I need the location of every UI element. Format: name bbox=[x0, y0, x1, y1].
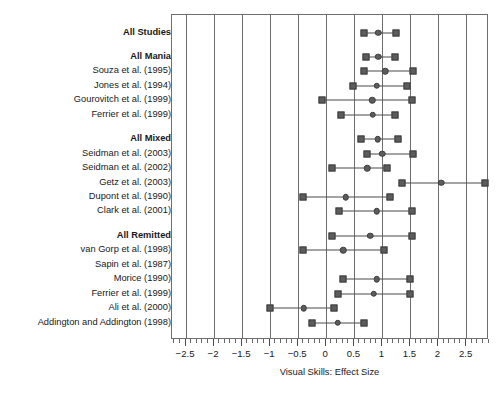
x-tick-label: −2.5 bbox=[176, 348, 195, 359]
minor-tick bbox=[454, 339, 455, 343]
point-estimate-marker bbox=[334, 319, 341, 326]
major-tick bbox=[213, 339, 214, 346]
ci-upper-cap-marker bbox=[393, 29, 400, 36]
ci-upper-cap-marker bbox=[407, 276, 414, 283]
minor-tick bbox=[173, 339, 174, 343]
group-label: All Studies bbox=[123, 27, 171, 37]
major-tick bbox=[381, 339, 382, 346]
study-label: Clark et al. (2001) bbox=[97, 205, 171, 215]
study-label: Dupont et al. (1990) bbox=[89, 191, 171, 201]
group-label: All Mania bbox=[130, 51, 171, 61]
gridline-1 bbox=[382, 15, 383, 338]
x-tick-label: 0 bbox=[323, 348, 328, 359]
ci-upper-cap-marker bbox=[383, 165, 390, 172]
ci-upper-cap-marker bbox=[403, 82, 410, 89]
plot-area bbox=[171, 14, 488, 339]
ci-lower-cap-marker bbox=[267, 305, 274, 312]
gridline-neg1 bbox=[270, 15, 271, 338]
major-tick bbox=[297, 339, 298, 346]
minor-tick bbox=[274, 339, 275, 343]
minor-tick bbox=[218, 339, 219, 343]
ci-lower-cap-marker bbox=[362, 53, 369, 60]
study-label: Getz et al. (2003) bbox=[99, 177, 171, 187]
ci-lower-cap-marker bbox=[299, 247, 306, 254]
confidence-interval-line bbox=[364, 71, 413, 72]
x-axis: −2.5−2−1.5−1−0.500.511.522.5 Visual Skil… bbox=[171, 339, 488, 393]
ci-lower-cap-marker bbox=[361, 68, 368, 75]
minor-tick bbox=[342, 339, 343, 343]
ci-lower-cap-marker bbox=[364, 150, 371, 157]
group-label: All Mixed bbox=[130, 133, 171, 143]
point-estimate-marker bbox=[369, 97, 376, 104]
x-tick-label: −1 bbox=[264, 348, 275, 359]
gridline-neg2p5 bbox=[186, 15, 187, 338]
ci-lower-cap-marker bbox=[360, 29, 367, 36]
ci-upper-cap-marker bbox=[380, 247, 387, 254]
x-tick-label: −2 bbox=[208, 348, 219, 359]
x-tick-label: 1.5 bbox=[403, 348, 416, 359]
minor-tick bbox=[476, 339, 477, 343]
minor-tick bbox=[415, 339, 416, 343]
minor-tick bbox=[370, 339, 371, 343]
minor-tick bbox=[375, 339, 376, 343]
minor-tick bbox=[319, 339, 320, 343]
minor-tick bbox=[257, 339, 258, 343]
x-tick-label: 2.5 bbox=[459, 348, 472, 359]
point-estimate-marker bbox=[364, 165, 371, 172]
minor-tick bbox=[252, 339, 253, 343]
point-estimate-marker bbox=[343, 194, 350, 201]
confidence-interval-line bbox=[367, 153, 413, 154]
ci-lower-cap-marker bbox=[338, 111, 345, 118]
ci-upper-cap-marker bbox=[408, 208, 415, 215]
minor-tick bbox=[347, 339, 348, 343]
x-tick-label: 0.5 bbox=[347, 348, 360, 359]
major-tick bbox=[269, 339, 270, 346]
point-estimate-marker bbox=[438, 179, 445, 186]
study-label: van Gorp et al. (1998) bbox=[81, 244, 171, 254]
ci-upper-cap-marker bbox=[387, 194, 394, 201]
point-estimate-marker bbox=[340, 247, 347, 254]
ci-lower-cap-marker bbox=[335, 208, 342, 215]
minor-tick bbox=[330, 339, 331, 343]
minor-tick bbox=[358, 339, 359, 343]
x-tick-label: −0.5 bbox=[288, 348, 307, 359]
minor-tick bbox=[403, 339, 404, 343]
major-tick bbox=[465, 339, 466, 346]
ci-upper-cap-marker bbox=[360, 319, 367, 326]
ci-upper-cap-marker bbox=[392, 53, 399, 60]
major-tick bbox=[437, 339, 438, 346]
study-label: Seidman et al. (2003) bbox=[82, 148, 171, 158]
ci-lower-cap-marker bbox=[350, 82, 357, 89]
major-tick bbox=[353, 339, 354, 346]
minor-tick bbox=[302, 339, 303, 343]
major-tick bbox=[185, 339, 186, 346]
point-estimate-marker bbox=[371, 290, 378, 297]
point-estimate-marker bbox=[370, 112, 377, 119]
ci-lower-cap-marker bbox=[358, 136, 365, 143]
ci-lower-cap-marker bbox=[309, 319, 316, 326]
minor-tick bbox=[190, 339, 191, 343]
study-label: Gourovitch et al. (1999) bbox=[74, 94, 171, 104]
point-estimate-marker bbox=[301, 305, 308, 312]
minor-tick bbox=[246, 339, 247, 343]
study-label: Ali et al. (2000) bbox=[108, 302, 171, 312]
minor-tick bbox=[229, 339, 230, 343]
ci-upper-cap-marker bbox=[410, 150, 417, 157]
ci-lower-cap-marker bbox=[328, 232, 335, 239]
minor-tick bbox=[392, 339, 393, 343]
minor-tick bbox=[207, 339, 208, 343]
ci-upper-cap-marker bbox=[395, 136, 402, 143]
ci-lower-cap-marker bbox=[318, 97, 325, 104]
minor-tick bbox=[431, 339, 432, 343]
gridline-2 bbox=[438, 15, 439, 338]
point-estimate-marker bbox=[367, 233, 374, 240]
ci-lower-cap-marker bbox=[299, 194, 306, 201]
minor-tick bbox=[224, 339, 225, 343]
confidence-interval-line bbox=[332, 168, 387, 169]
minor-tick bbox=[398, 339, 399, 343]
minor-tick bbox=[420, 339, 421, 343]
study-label: Souza et al. (1995) bbox=[92, 65, 171, 75]
study-label: Ferrier et al. (1999) bbox=[91, 109, 171, 119]
ci-upper-cap-marker bbox=[408, 97, 415, 104]
minor-tick bbox=[314, 339, 315, 343]
